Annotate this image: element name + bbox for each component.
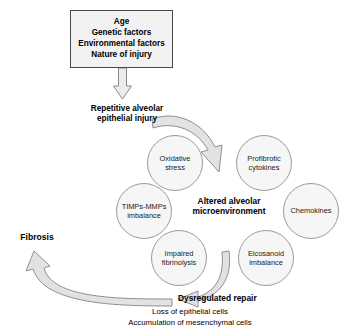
label-dysregulated-repair: Dysregulated repair — [178, 294, 284, 304]
bubble-oxidative-stress: Oxidative stress — [147, 135, 203, 191]
label-accumulation-of-mesenchymal-cells: Accumulation of mesenchymal cells — [95, 318, 285, 327]
label-fibrosis: Fibrosis — [2, 232, 72, 242]
bubble-profibrotic-cytokines: Profibrotic cytokines — [236, 135, 292, 191]
risk-factor-line-injury-nature: Nature of injury — [91, 50, 152, 61]
risk-factor-line-genetic: Genetic factors — [92, 28, 152, 39]
pathogenesis-diagram: Age Genetic factors Environmental factor… — [0, 0, 350, 333]
risk-factors-box: Age Genetic factors Environmental factor… — [70, 10, 173, 68]
bubble-label-chemokines: Chemokines — [290, 206, 331, 215]
label-repetitive-alveolar-epithelial-injury: Repetitive alveolar epithelial injury — [62, 104, 192, 123]
bubble-label-eicosanoid-imbalance: Eicosanoid imbalance — [248, 249, 284, 268]
bubble-timps-mmps-imbalance: TIMPs-MMPs imbalance — [116, 183, 172, 239]
bubble-eicosanoid-imbalance: Eicosanoid imbalance — [238, 230, 294, 286]
bubble-label-oxidative-stress: Oxidative stress — [160, 154, 191, 173]
bubble-chemokines: Chemokines — [283, 183, 339, 239]
bubble-label-timps-mmps-imbalance: TIMPs-MMPs imbalance — [122, 202, 167, 221]
risk-factor-line-age: Age — [114, 17, 129, 28]
label-altered-alveolar-microenvironment: Altered alveolar microenvironment — [170, 197, 288, 217]
bubble-label-impaired-fibrinolysis: Impaired fibrinolysis — [162, 249, 197, 268]
bubble-label-profibrotic-cytokines: Profibrotic cytokines — [247, 154, 280, 173]
risk-factor-line-environmental: Environmental factors — [78, 39, 164, 50]
arrow-box-to-injury-icon — [114, 68, 132, 99]
bubble-impaired-fibrinolysis: Impaired fibrinolysis — [151, 230, 207, 286]
label-loss-of-epithelial-cells: Loss of epithelial cells — [120, 307, 260, 316]
